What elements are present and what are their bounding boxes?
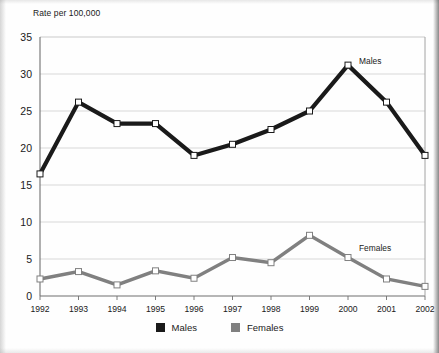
data-point-marker <box>230 255 236 261</box>
data-point-marker <box>153 268 159 274</box>
y-axis-tick-label: 15 <box>20 179 32 191</box>
data-point-marker <box>268 127 274 133</box>
legend-swatch-males <box>156 323 165 332</box>
data-point-marker <box>384 99 390 105</box>
line-chart-plot: 0510152025303519921993199419951996199719… <box>0 0 439 353</box>
legend-label-males: Males <box>172 322 197 333</box>
data-point-marker <box>191 275 197 281</box>
y-axis-tick-label: 30 <box>20 68 32 80</box>
x-axis-tick-label: 1994 <box>107 304 126 314</box>
data-point-marker <box>422 152 428 158</box>
chart-container: Rate per 100,000 05101520253035199219931… <box>0 0 439 353</box>
data-point-marker <box>384 276 390 282</box>
y-axis-tick-label: 5 <box>26 253 32 265</box>
data-point-marker <box>114 121 120 127</box>
x-axis-tick-label: 1999 <box>300 304 319 314</box>
data-point-marker <box>114 282 120 288</box>
y-axis-tick-label: 25 <box>20 105 32 117</box>
data-point-marker <box>230 141 236 147</box>
x-axis-tick-label: 1996 <box>184 304 203 314</box>
legend-label-females: Females <box>247 322 283 333</box>
data-point-marker <box>422 283 428 289</box>
data-point-marker <box>307 108 313 114</box>
x-axis-tick-label: 1992 <box>30 304 49 314</box>
x-axis-tick-label: 1995 <box>146 304 165 314</box>
legend-swatch-females <box>231 323 240 332</box>
x-axis-tick-label: 2000 <box>338 304 357 314</box>
data-point-marker <box>268 260 274 266</box>
data-point-marker <box>37 171 43 177</box>
x-axis-tick-label: 2002 <box>415 304 434 314</box>
legend-item-females[interactable]: Females <box>231 322 283 333</box>
y-axis-tick-label: 20 <box>20 142 32 154</box>
data-point-marker <box>191 152 197 158</box>
x-axis-tick-label: 2001 <box>377 304 396 314</box>
data-point-marker <box>345 255 351 261</box>
y-axis-tick-label: 0 <box>26 290 32 302</box>
x-axis-tick-label: 1997 <box>223 304 242 314</box>
data-point-marker <box>345 62 351 68</box>
series-annotation-females: Females <box>359 243 391 253</box>
y-axis-tick-label: 10 <box>20 216 32 228</box>
data-point-marker <box>76 269 82 275</box>
data-point-marker <box>37 276 43 282</box>
series-annotation-males: Males <box>359 56 381 66</box>
legend-item-males[interactable]: Males <box>156 322 197 333</box>
data-point-marker <box>153 121 159 127</box>
series-line-males <box>40 65 425 174</box>
data-point-marker <box>307 232 313 238</box>
data-point-marker <box>76 99 82 105</box>
chart-legend: Males Females <box>0 322 439 333</box>
x-axis-tick-label: 1998 <box>261 304 280 314</box>
y-axis-tick-label: 35 <box>20 31 32 43</box>
x-axis-tick-label: 1993 <box>69 304 88 314</box>
